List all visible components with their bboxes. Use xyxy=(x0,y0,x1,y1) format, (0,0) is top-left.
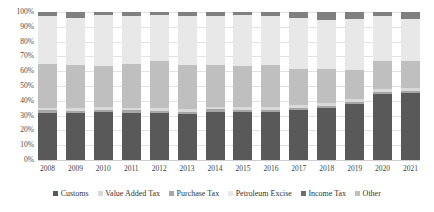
bar-column[interactable] xyxy=(373,12,392,160)
legend-item[interactable]: Purchase Tax xyxy=(169,189,219,198)
bar-column[interactable] xyxy=(38,12,57,160)
bar-segment xyxy=(289,159,308,160)
x-axis-tick-label: 2011 xyxy=(122,163,141,175)
x-axis-tick-label: 2010 xyxy=(94,163,113,175)
bar-segment xyxy=(206,159,225,160)
legend-item[interactable]: Customs xyxy=(53,189,89,198)
bar-segment xyxy=(261,112,280,159)
x-axis-tick-label: 2008 xyxy=(38,163,57,175)
bar-segment xyxy=(38,16,57,63)
x-axis-tick-label: 2014 xyxy=(206,163,225,175)
bar-segment xyxy=(317,159,336,160)
bar-segment xyxy=(178,114,197,159)
bar-segment xyxy=(94,66,113,107)
bar-column[interactable] xyxy=(178,12,197,160)
bar-segment xyxy=(150,159,169,160)
x-axis-tick-label: 2016 xyxy=(261,163,280,175)
bar-segment xyxy=(373,61,392,89)
legend-swatch-icon xyxy=(355,191,360,196)
bar-segment xyxy=(178,16,197,65)
bar-column[interactable] xyxy=(150,12,169,160)
x-axis-tick-label: 2012 xyxy=(150,163,169,175)
bar-column[interactable] xyxy=(401,12,420,160)
legend-swatch-icon xyxy=(53,191,58,196)
x-axis-tick-label: 2017 xyxy=(289,163,308,175)
legend-item-label: Customs xyxy=(61,189,89,198)
bar-segment xyxy=(233,159,252,160)
bar-column[interactable] xyxy=(94,12,113,160)
y-axis-tick-label: 40% xyxy=(0,97,34,105)
legend-swatch-icon xyxy=(98,191,103,196)
bar-segment xyxy=(233,15,252,66)
x-axis-tick-label: 2019 xyxy=(345,163,364,175)
bar-column[interactable] xyxy=(122,12,141,160)
bar-segment xyxy=(122,113,141,159)
bar-column[interactable] xyxy=(261,12,280,160)
bar-column[interactable] xyxy=(289,12,308,160)
bar-segment xyxy=(317,69,336,103)
bar-segment xyxy=(233,112,252,158)
bar-segment xyxy=(38,113,57,159)
x-axis-tick-label: 2015 xyxy=(233,163,252,175)
y-axis-tick-label: 70% xyxy=(0,53,34,61)
bar-segment xyxy=(94,159,113,160)
bar-segment xyxy=(66,159,85,160)
legend-item[interactable]: Other xyxy=(355,189,381,198)
legend-swatch-icon xyxy=(301,191,306,196)
bar-segment xyxy=(261,65,280,107)
x-axis-tick-label: 2009 xyxy=(66,163,85,175)
bar-segment xyxy=(178,159,197,160)
bar-segment-other-cap xyxy=(317,12,336,20)
bar-segment xyxy=(373,159,392,160)
bar-segment xyxy=(66,113,85,159)
bar-segment xyxy=(401,61,420,88)
bar-segment xyxy=(66,18,85,65)
bar-column[interactable] xyxy=(233,12,252,160)
bar-segment xyxy=(94,112,113,158)
bar-series-container xyxy=(38,12,420,160)
bar-segment xyxy=(317,108,336,159)
y-axis-tick-label: 10% xyxy=(0,141,34,149)
y-axis-tick-label: 100% xyxy=(0,8,34,16)
x-axis: 2008200920102011201220132014201520162017… xyxy=(38,163,420,175)
bar-segment xyxy=(317,20,336,69)
y-axis-tick-label: 0% xyxy=(0,156,34,164)
bar-segment xyxy=(150,15,169,61)
bar-segment xyxy=(150,113,169,159)
legend-item-label: Value Added Tax xyxy=(105,189,160,198)
bar-segment xyxy=(38,64,57,108)
y-axis-tick-label: 50% xyxy=(0,82,34,90)
bar-column[interactable] xyxy=(345,12,364,160)
legend-item-label: Other xyxy=(363,189,381,198)
bar-segment xyxy=(373,16,392,61)
bar-segment xyxy=(233,66,252,107)
bar-segment xyxy=(401,19,420,61)
bar-segment xyxy=(122,159,141,160)
bar-segment xyxy=(401,159,420,160)
x-axis-tick-label: 2018 xyxy=(317,163,336,175)
legend-item[interactable]: Petroleum Excise xyxy=(228,189,292,198)
y-axis-tick-label: 90% xyxy=(0,23,34,31)
bar-segment xyxy=(66,65,85,108)
bar-segment xyxy=(289,18,308,69)
bar-segment xyxy=(94,15,113,66)
y-axis-tick-label: 20% xyxy=(0,127,34,135)
legend-item[interactable]: Value Added Tax xyxy=(98,189,160,198)
bar-column[interactable] xyxy=(206,12,225,160)
bar-column[interactable] xyxy=(66,12,85,160)
bar-segment xyxy=(38,159,57,160)
legend-swatch-icon xyxy=(228,191,233,196)
y-axis-tick-label: 60% xyxy=(0,67,34,75)
bar-segment xyxy=(401,93,420,159)
bar-segment xyxy=(345,70,364,99)
bar-segment xyxy=(345,104,364,159)
bar-segment xyxy=(373,94,392,159)
legend-swatch-icon xyxy=(169,191,174,196)
plot-area xyxy=(38,12,420,160)
bar-segment xyxy=(150,61,169,107)
stacked-bar-chart: 100%90%80%70%60%50%40%30%20%10%0% 200820… xyxy=(0,0,434,212)
gridline xyxy=(38,160,420,161)
legend-item[interactable]: Income Tax xyxy=(301,189,346,198)
bar-column[interactable] xyxy=(317,12,336,160)
y-axis-tick-label: 80% xyxy=(0,38,34,46)
